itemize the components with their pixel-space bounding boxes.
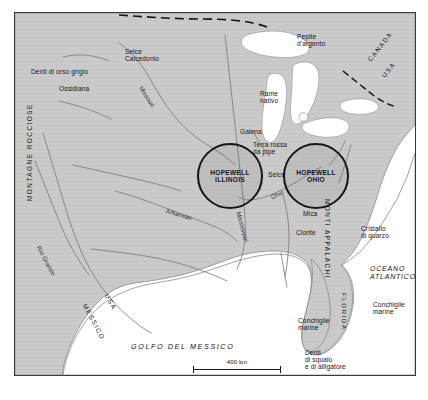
region-montagne-rocciose: MONTAGNE ROCCIOSE <box>27 103 34 201</box>
resource-selce: Selce <box>268 171 285 178</box>
resource-denti-orso-grigio: Denti di orso grigio <box>31 68 88 75</box>
site-hopewell-ohio-line2: OHIO <box>296 176 335 183</box>
lake-st-clair <box>299 113 308 122</box>
resource-galena: Galena <box>240 128 262 135</box>
map-frame: HOPEWELL ILLINOIS HOPEWELL OHIO Denti di… <box>14 12 416 376</box>
resource-ossidiana: Ossidiana <box>59 85 89 92</box>
resource-clorite: Clorite <box>296 229 316 236</box>
region-oceano-atlantico: OCEANO ATLANTICO <box>370 265 416 280</box>
resource-cristallo-di-quarzo: Cristallo di quarzo <box>361 225 389 239</box>
site-hopewell-ohio-line1: HOPEWELL <box>296 169 335 176</box>
resource-mica: Mica <box>303 210 317 217</box>
resource-terra-rossa-da-pipe: Terra rossa da pipe <box>253 141 287 155</box>
scale-bar: 400 km <box>193 358 281 373</box>
region-florida: FLORIDA <box>340 293 347 330</box>
site-hopewell-illinois-line2: ILLINOIS <box>210 176 249 183</box>
resource-denti-di-squalo: Denti di squalo e di alligatore <box>305 349 346 370</box>
site-hopewell-ohio[interactable]: HOPEWELL OHIO <box>283 143 349 209</box>
map-figure: HOPEWELL ILLINOIS HOPEWELL OHIO Denti di… <box>0 0 428 400</box>
resource-conchiglie-marine-golfo: Conchiglie marine <box>298 317 330 331</box>
scale-bar-label: 400 km <box>227 358 247 365</box>
lake-ontario <box>340 99 378 115</box>
region-golfo-del-messico: GOLFO DEL MESSICO <box>131 343 234 351</box>
region-monti-appalachi: MONTI APPALACHI <box>323 199 330 279</box>
resource-pepite-argento: Pepite d'argento <box>297 33 325 47</box>
scale-bar-graphic <box>193 366 281 373</box>
resource-rame-nativo: Rame nativo <box>260 90 278 104</box>
resource-conchiglie-marine-atlantico: Conchiglie marine <box>373 301 405 315</box>
site-hopewell-illinois-line1: HOPEWELL <box>210 169 249 176</box>
resource-selce-calcedonio: Selce Calcedonio <box>125 48 159 62</box>
